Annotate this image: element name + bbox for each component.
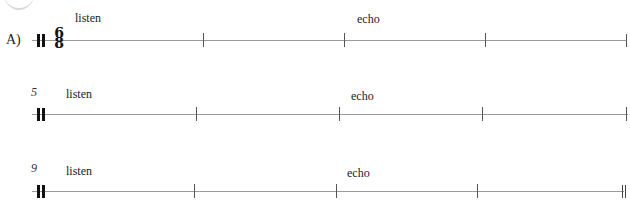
lyric-listen: listen: [66, 164, 92, 179]
final-barline-icon: [622, 185, 626, 198]
time-signature-bottom: 8: [54, 38, 64, 48]
barline: [336, 184, 337, 198]
barline: [194, 184, 195, 198]
lyric-echo: echo: [351, 89, 374, 104]
time-signature: 6 8: [54, 28, 64, 48]
exercise-label: A): [6, 32, 21, 48]
staff-line: [32, 191, 624, 192]
decorative-arc: [4, 0, 34, 10]
barline: [626, 107, 627, 121]
start-repeat-icon: [37, 108, 45, 121]
measure-number: 9: [31, 161, 37, 176]
barline: [196, 107, 197, 121]
staff-line: [32, 40, 626, 41]
lyric-echo: echo: [357, 12, 380, 27]
lyric-echo: echo: [347, 166, 370, 181]
barline: [203, 33, 204, 47]
measure-number: 5: [31, 85, 37, 100]
lyric-listen: listen: [66, 87, 92, 102]
barline: [344, 33, 345, 47]
lyric-listen: listen: [75, 11, 101, 26]
barline: [626, 34, 627, 47]
barline: [485, 33, 486, 47]
staff-line: [32, 114, 628, 115]
start-repeat-icon: [37, 185, 45, 198]
barline: [477, 184, 478, 198]
barline: [339, 107, 340, 121]
start-repeat-icon: [37, 34, 45, 47]
barline: [482, 107, 483, 121]
